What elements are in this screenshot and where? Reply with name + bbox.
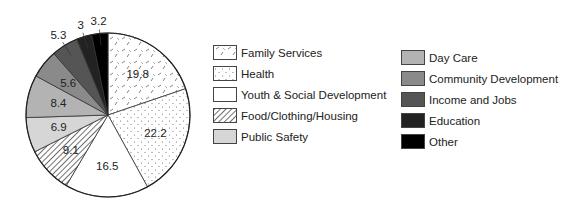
family-services-swatch-icon [213,45,237,60]
legend-item-family-services: Family Services [213,45,322,60]
legend-label: Youth & Social Development [241,89,386,101]
legend-item-day-care: Day Care [401,50,478,65]
health-swatch-icon [213,66,237,81]
day-care-swatch-icon [401,50,425,65]
pie-data-label: 22.2 [144,127,166,139]
pie-slices [26,33,190,197]
legend-label: Food/Clothing/Housing [241,110,358,122]
pie-data-label: 3.2 [91,15,107,27]
pie-data-label: 5.6 [60,77,76,89]
pie-data-label: 9.1 [63,144,79,156]
pie-data-label: 16.5 [96,160,118,172]
legend-item-income-and-jobs: Income and Jobs [401,92,517,107]
legend-item-public-safety: Public Safety [213,129,308,144]
legend-item-youth-social-development: Youth & Social Development [213,87,386,102]
legend-label: Day Care [429,52,478,64]
other-swatch-icon [401,134,425,149]
legend-item-education: Education [401,113,480,128]
legend-item-community-development: Community Development [401,71,558,86]
food-swatch-icon [213,108,237,123]
pie-data-label: 6.9 [51,121,67,133]
legend-item-health: Health [213,66,274,81]
pie-data-label: 19.8 [126,68,148,80]
youth-swatch-icon [213,87,237,102]
legend-label: Income and Jobs [429,94,517,106]
income-jobs-swatch-icon [401,92,425,107]
legend-item-other: Other [401,134,458,149]
pie-chart: 19.822.216.59.16.98.45.65.333.2 [0,0,210,209]
community-development-swatch-icon [401,71,425,86]
pie-data-label: 3 [77,19,83,31]
legend-label: Health [241,68,274,80]
legend-label: Public Safety [241,131,308,143]
pie-data-label: 8.4 [51,97,68,109]
public-safety-swatch-icon [213,129,237,144]
legend-label: Education [429,115,480,127]
pie-data-label: 5.3 [50,29,66,41]
legend-item-food-clothing-housing: Food/Clothing/Housing [213,108,358,123]
education-swatch-icon [401,113,425,128]
legend-label: Community Development [429,73,558,85]
legend-label: Family Services [241,47,322,59]
legend-label: Other [429,136,458,148]
